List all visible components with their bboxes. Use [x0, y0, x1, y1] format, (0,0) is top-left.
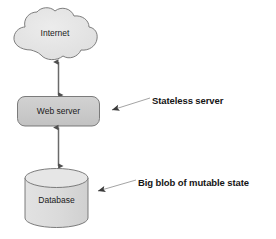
node-web-server: Web server	[18, 97, 100, 127]
callout-leader-line-big-blob	[98, 180, 136, 191]
node-database: Database	[25, 169, 88, 228]
node-internet-label: Internet	[41, 28, 70, 38]
architecture-diagram: Internet Web server Database Stateless s…	[0, 0, 276, 239]
node-database-label: Database	[38, 195, 75, 205]
callout-leader-line-stateless-server	[112, 98, 150, 110]
callout-label-stateless-server: Stateless server	[152, 95, 224, 106]
node-web-server-label: Web server	[37, 106, 80, 116]
callout-big-blob-of-mutable-state: Big blob of mutable state	[98, 177, 249, 191]
callout-label-big-blob-of-mutable-state: Big blob of mutable state	[138, 177, 249, 188]
node-internet: Internet	[14, 8, 97, 60]
callout-stateless-server: Stateless server	[112, 95, 224, 110]
cylinder-top	[25, 169, 88, 188]
diagram-canvas: Internet Web server Database Stateless s…	[0, 0, 276, 239]
